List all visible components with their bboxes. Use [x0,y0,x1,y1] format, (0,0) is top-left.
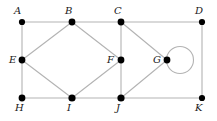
self-loops-group [167,47,194,74]
vertex-label-i: I [67,103,71,113]
vertex-d [199,19,205,25]
vertex-label-e: E [9,55,16,65]
edge-f-i [72,60,121,98]
vertex-label-k: K [195,103,202,113]
vertex-e [19,57,26,64]
vertex-label-c: C [114,6,122,16]
vertex-label-j: J [116,103,120,113]
vertex-j [117,94,124,101]
vertex-c [118,19,125,26]
edge-e-i [22,60,72,98]
vertex-k [199,95,205,101]
graph-diagram: ABCDEFGHIJK [0,0,217,121]
edge-e-b [22,22,72,60]
vertex-b [69,19,76,26]
vertex-label-h: H [15,103,24,113]
vertex-label-b: B [65,6,72,16]
vertex-label-d: D [195,6,203,16]
self-loop-g [167,47,194,74]
vertex-h [19,95,26,102]
vertex-i [68,94,75,101]
vertex-f [118,57,125,64]
vertex-a [19,19,25,25]
vertex-g [164,57,171,64]
vertex-label-f: F [107,55,114,65]
vertex-label-a: A [14,6,21,16]
vertex-label-g: G [153,55,161,65]
edge-g-j [121,60,167,98]
